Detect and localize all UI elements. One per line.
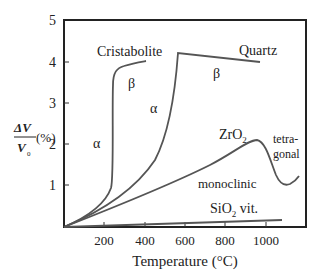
label-sio2-vit: SiO2 vit. (210, 201, 258, 219)
label-tetragonal-2: gonal (273, 147, 300, 161)
label-quartz: Quartz (239, 43, 277, 58)
label-quartz-beta: β (213, 66, 220, 81)
y-label-numerator: ΔV (13, 120, 32, 135)
y-tick-4: 4 (49, 55, 56, 70)
label-quartz-alpha: α (150, 101, 158, 116)
label-cristobalite: Cristabolite (97, 44, 162, 59)
y-tick-3: 3 (49, 96, 56, 111)
x-tick-800: 800 (215, 233, 235, 248)
label-zro2: ZrO2 (219, 127, 247, 145)
series-sio2-vit (64, 220, 282, 227)
label-monoclinic: monoclinic (198, 176, 257, 191)
x-tick-400: 400 (135, 233, 155, 248)
chart: 5 4 3 2 1 200 400 600 800 1000 Temperatu… (0, 0, 320, 274)
y-axis-label: ΔV V 0 (%) (13, 120, 56, 158)
label-cristobalite-beta: β (128, 76, 135, 91)
series-zro2 (64, 140, 299, 227)
y-label-unit: (%) (36, 130, 56, 145)
y-tick-5: 5 (49, 13, 56, 28)
x-tick-200: 200 (94, 233, 114, 248)
label-cristobalite-alpha: α (93, 136, 101, 151)
y-tick-1: 1 (49, 178, 56, 193)
x-tick-600: 600 (175, 233, 195, 248)
y-label-subscript: 0 (27, 150, 31, 158)
label-tetragonal-1: tetra- (273, 132, 298, 146)
y-label-denominator: V (17, 140, 27, 155)
x-tick-1000: 1000 (253, 233, 279, 248)
x-axis-label: Temperature (°C) (132, 253, 237, 270)
